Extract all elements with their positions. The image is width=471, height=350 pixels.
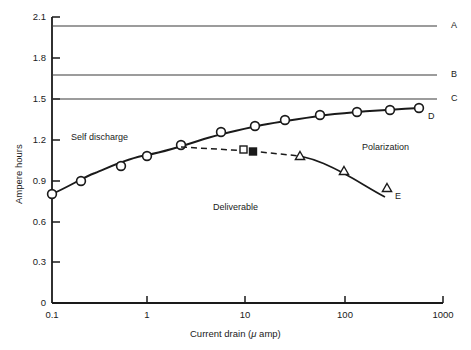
data-point	[353, 108, 362, 117]
x-axis-title: Current drain (μ amp)	[190, 329, 281, 339]
curve-label-e: E	[395, 192, 401, 201]
y-tick-label-1.8: 1.8	[20, 53, 46, 63]
data-point-triangle	[382, 184, 391, 192]
data-point-square-filled	[250, 148, 257, 155]
x-tick-marks	[147, 296, 443, 303]
data-point-triangle	[295, 152, 304, 160]
y-tick-label-1.5: 1.5	[20, 94, 46, 104]
data-point	[117, 162, 126, 171]
data-point-triangle	[339, 167, 348, 175]
data-point	[281, 116, 290, 125]
curve-label-c: C	[451, 94, 458, 103]
data-point	[217, 128, 226, 137]
curve-label-b: B	[451, 70, 457, 79]
series-e-square-markers	[240, 146, 257, 155]
y-tick-label-0.3: 0.3	[20, 257, 46, 267]
y-axis-title: Ampere hours	[14, 144, 24, 204]
data-point	[415, 104, 424, 113]
reference-lines	[52, 26, 437, 99]
x-axis-title-post: amp)	[256, 328, 280, 339]
x-tick-label-1: 1	[127, 310, 167, 320]
chart-figure: 2.1 1.8 1.5 1.2 0.9 0.6 0.3 0 0.1 1 10 1…	[0, 0, 471, 350]
data-point	[143, 152, 152, 161]
x-tick-label-100: 100	[325, 310, 365, 320]
annotation-self-discharge: Self discharge	[71, 133, 128, 142]
data-point	[48, 190, 57, 199]
y-tick-label-0.6: 0.6	[20, 217, 46, 227]
series-e-curve	[181, 146, 392, 197]
x-tick-label-0.1: 0.1	[32, 310, 72, 320]
y-tick-marks	[52, 17, 60, 262]
chart-plot-area	[0, 0, 471, 350]
x-axis-title-pre: Current drain (	[190, 328, 251, 339]
curve-label-a: A	[451, 21, 457, 30]
axis-spines	[52, 17, 443, 303]
data-point	[177, 141, 186, 150]
annotation-polarization: Polarization	[362, 143, 409, 152]
data-point	[386, 106, 395, 115]
data-point	[77, 177, 86, 186]
data-point-square	[240, 146, 247, 153]
series-e-solid-line	[300, 156, 385, 197]
x-tick-label-1000: 1000	[423, 310, 463, 320]
y-tick-label-2.1: 2.1	[20, 12, 46, 22]
data-point	[316, 111, 325, 120]
curve-label-d: D	[428, 112, 435, 121]
y-tick-label-0: 0	[20, 298, 46, 308]
data-point	[251, 122, 260, 131]
annotation-deliverable: Deliverable	[213, 203, 258, 212]
x-tick-label-10: 10	[225, 310, 265, 320]
series-e-triangle-markers	[295, 152, 391, 192]
